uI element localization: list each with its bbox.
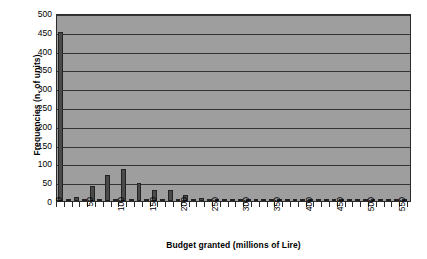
x-tick-label: 150 [149,197,158,227]
bar [386,199,391,201]
bar [66,199,71,201]
x-tick-label: 50 [86,197,95,227]
bar [347,199,352,201]
x-axis-tick-labels: 050100150200250300350400450500550 [56,207,411,237]
histogram-figure: Frequencies (n. of units) 05010015020025… [0,0,427,259]
y-tick-label: 100 [22,160,52,168]
bar [254,199,259,201]
bar [261,199,266,201]
bar [129,199,134,201]
bar [97,199,102,201]
x-tick-label: 450 [336,197,345,227]
bar [355,199,360,201]
bar [230,199,235,201]
x-tick-label: 550 [398,197,407,227]
bar [222,199,227,201]
y-tick-label: 350 [22,66,52,74]
y-tick-label: 500 [22,10,52,18]
bar [168,190,173,201]
x-tick-label: 200 [180,197,189,227]
bar [160,199,165,201]
x-tick-label: 350 [273,197,282,227]
y-tick-label: 50 [22,179,52,187]
bar [285,199,290,201]
y-tick-label: 200 [22,123,52,131]
x-axis-title: Budget granted (millions of Lire) [56,240,411,250]
bar [316,199,321,201]
y-tick-label: 300 [22,85,52,93]
x-tick-label: 250 [211,197,220,227]
x-tick-label: 100 [117,197,126,227]
bar [324,199,329,201]
x-tick-label: 500 [367,197,376,227]
x-tick-label: 300 [242,197,251,227]
bar [105,175,110,201]
bar [199,198,204,201]
x-tick-label: 0 [55,197,64,227]
y-tick-label: 450 [22,29,52,37]
y-axis-tick-labels: 050100150200250300350400450500 [22,14,52,202]
x-tick-label: 400 [305,197,314,227]
bar [191,199,196,201]
bar [74,197,79,201]
bar [58,32,63,201]
bar-series [57,15,410,201]
y-tick-label: 150 [22,142,52,150]
plot-area [56,14,411,202]
y-tick-label: 400 [22,48,52,56]
bar [293,199,298,201]
y-tick-label: 250 [22,104,52,112]
bar [137,183,142,201]
y-tick-label: 0 [22,198,52,206]
bar [378,199,383,201]
